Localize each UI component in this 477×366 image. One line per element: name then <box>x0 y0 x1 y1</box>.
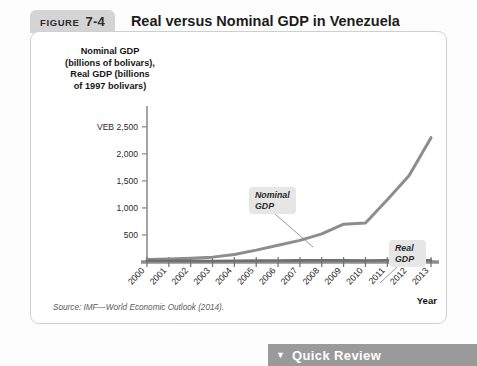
svg-text:2000: 2000 <box>126 265 147 286</box>
svg-text:2008: 2008 <box>301 265 322 286</box>
svg-text:2002: 2002 <box>169 265 190 286</box>
svg-text:1,500: 1,500 <box>116 176 138 186</box>
figure-header: FIGURE 7-4 Real versus Nominal GDP in Ve… <box>30 9 462 33</box>
figure-badge-number: 7-4 <box>86 14 105 29</box>
chevron-down-icon: ▼ <box>276 351 285 360</box>
svg-text:Year: Year <box>417 295 438 306</box>
quick-review-bar[interactable]: ▼ Quick Review <box>268 344 477 366</box>
figure-badge-word: FIGURE <box>40 17 80 28</box>
svg-text:2,000: 2,000 <box>116 149 138 159</box>
svg-text:2012: 2012 <box>388 265 409 286</box>
figure-container: FIGURE 7-4 Real versus Nominal GDP in Ve… <box>0 0 477 366</box>
svg-text:Nominal: Nominal <box>255 190 290 200</box>
svg-text:2009: 2009 <box>322 265 343 286</box>
quick-review-label: Quick Review <box>292 348 381 363</box>
svg-text:GDP: GDP <box>255 201 274 211</box>
svg-text:Real: Real <box>395 243 414 253</box>
svg-text:VEB 2,500: VEB 2,500 <box>97 122 138 132</box>
svg-text:2005: 2005 <box>235 265 256 286</box>
svg-text:GDP: GDP <box>395 254 414 264</box>
gdp-line-chart: 5001,0001,5002,000VEB 2,5002000200120022… <box>31 32 448 325</box>
svg-text:2007: 2007 <box>279 265 300 286</box>
figure-badge: FIGURE 7-4 <box>30 10 115 33</box>
svg-text:500: 500 <box>124 230 139 240</box>
svg-text:1,000: 1,000 <box>116 203 138 213</box>
svg-text:2001: 2001 <box>148 265 169 286</box>
source-note: Source: IMF—World Economic Outlook (2014… <box>53 303 224 312</box>
figure-title: Real versus Nominal GDP in Venezuela <box>131 13 400 29</box>
svg-text:2006: 2006 <box>257 265 278 286</box>
svg-text:2004: 2004 <box>213 265 234 286</box>
svg-text:2011: 2011 <box>367 265 387 286</box>
svg-text:2003: 2003 <box>191 265 212 286</box>
svg-text:2013: 2013 <box>410 265 431 286</box>
plot-area: 5001,0001,5002,000VEB 2,5002000200120022… <box>31 32 448 325</box>
svg-text:2010: 2010 <box>344 265 365 286</box>
figure-card: Nominal GDP (billions of bolivars), Real… <box>30 31 447 324</box>
